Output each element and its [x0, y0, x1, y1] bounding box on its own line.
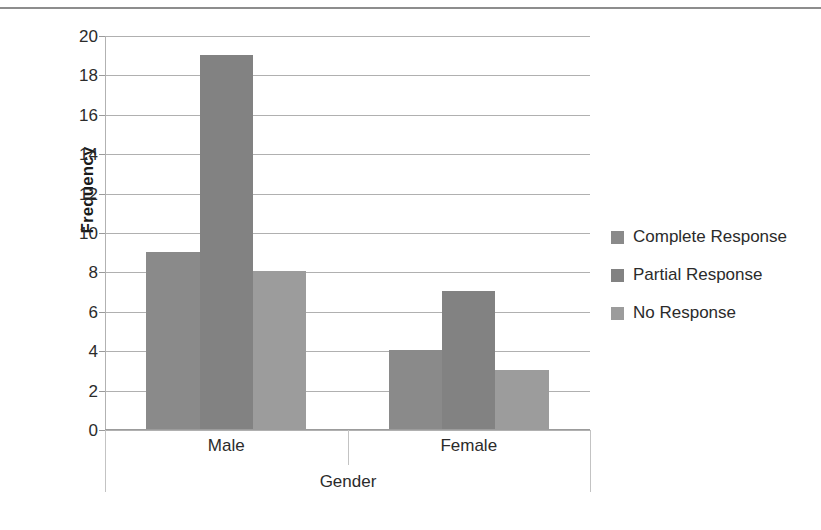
bar-female-partial-response[interactable]	[442, 291, 495, 429]
y-tick-label-16: 16	[54, 106, 98, 123]
y-tick-label-14: 14	[54, 146, 98, 163]
x-tick-label-male: Male	[105, 436, 348, 456]
x-axis-title: Gender	[105, 472, 591, 492]
y-tick-label-18: 18	[54, 67, 98, 84]
legend-swatch-icon	[611, 231, 624, 244]
y-tick-label-6: 6	[54, 303, 98, 320]
x-tick-label-female: Female	[348, 436, 591, 456]
bar-male-partial-response[interactable]	[200, 55, 253, 429]
bar-female-no-response[interactable]	[495, 370, 548, 429]
y-tick-label-2: 2	[54, 382, 98, 399]
legend-swatch-icon	[611, 269, 624, 282]
plot-area	[105, 36, 590, 430]
legend-item-partial-response[interactable]: Partial Response	[611, 256, 811, 294]
y-tick-label-12: 12	[54, 185, 98, 202]
legend-item-complete-response[interactable]: Complete Response	[611, 218, 811, 256]
bars-layer	[105, 36, 590, 430]
bar-female-complete-response[interactable]	[389, 350, 442, 429]
bar-male-complete-response[interactable]	[146, 252, 199, 429]
y-tick-label-20: 20	[54, 28, 98, 45]
legend-label: No Response	[633, 303, 736, 323]
bar-male-no-response[interactable]	[253, 271, 306, 429]
y-tick-label-0: 0	[54, 422, 98, 439]
y-tick-label-8: 8	[54, 264, 98, 281]
legend-swatch-icon	[611, 307, 624, 320]
y-axis-tick-labels: 20181614121086420	[54, 30, 98, 430]
y-tick-label-10: 10	[54, 225, 98, 242]
legend-item-no-response[interactable]: No Response	[611, 294, 811, 332]
chart-legend: Complete ResponsePartial ResponseNo Resp…	[611, 218, 811, 332]
bar-chart-figure: Frequency 20181614121086420 MaleFemale G…	[0, 0, 821, 530]
legend-label: Complete Response	[633, 227, 787, 247]
y-tick-label-4: 4	[54, 343, 98, 360]
legend-label: Partial Response	[633, 265, 762, 285]
